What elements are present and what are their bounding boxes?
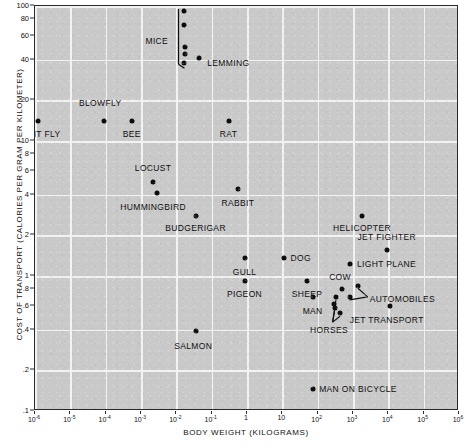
x-tick-mark	[281, 411, 282, 414]
point-label: HUMMINGBIRD	[120, 203, 186, 212]
data-point	[305, 278, 310, 283]
y-tick-mark	[30, 5, 34, 6]
x-tick-label: 10-3	[134, 414, 146, 423]
x-tick-label: 1	[244, 414, 248, 421]
y-tick-label: .4	[23, 324, 29, 333]
point-label: BLOWFLY	[79, 99, 121, 108]
data-point	[181, 23, 186, 28]
y-tick-mark	[30, 304, 34, 305]
data-point	[333, 294, 338, 299]
y-tick-label: .6	[23, 300, 29, 309]
y-tick-label: .8	[23, 284, 29, 293]
x-tick-mark	[387, 411, 388, 414]
y-tick-mark	[30, 99, 34, 100]
point-label: HORSES	[310, 326, 348, 335]
y-axis-title: COST OF TRANSPORT (CALORIES PER GRAM PER…	[15, 5, 24, 405]
data-point	[242, 256, 247, 261]
point-label: SALMON	[174, 342, 212, 351]
y-tick-mark	[30, 288, 34, 289]
data-point	[242, 278, 247, 283]
x-tick-mark	[34, 411, 35, 414]
y-tick-mark	[30, 275, 34, 276]
point-label: GULL	[233, 268, 257, 277]
y-tick-mark	[30, 369, 34, 370]
data-point	[154, 191, 159, 196]
y-tick-mark	[30, 58, 34, 59]
y-gridline	[35, 330, 457, 332]
bracket-label-mice: MICE	[145, 37, 168, 46]
x-tick-mark	[175, 411, 176, 414]
data-point	[356, 283, 361, 288]
data-point	[384, 248, 389, 253]
x-tick-label: 102	[311, 414, 322, 423]
data-point	[183, 52, 188, 57]
data-point	[347, 294, 352, 299]
cost-of-transport-chart: FRUIT FLYBLOWFLYBEELEMMINGRATLOCUSTHUMMI…	[0, 0, 465, 448]
data-point	[193, 213, 198, 218]
x-tick-mark	[352, 411, 353, 414]
x-gridline	[282, 6, 284, 409]
data-point	[183, 44, 188, 49]
x-tick-label: 105	[417, 414, 428, 423]
point-label: MAN ON BICYCLE	[319, 385, 397, 394]
data-point	[235, 187, 240, 192]
data-point	[387, 303, 392, 308]
y-tick-label: 1	[25, 271, 29, 280]
x-tick-label: 106	[453, 414, 464, 423]
x-tick-label: 10-4	[99, 414, 111, 423]
x-axis-title: BODY WEIGHT (KILOGRAMS)	[34, 428, 458, 437]
point-label: RAT	[220, 130, 237, 139]
x-tick-mark	[211, 411, 212, 414]
x-tick-mark	[69, 411, 70, 414]
y-tick-mark	[30, 34, 34, 35]
point-label: MAN	[303, 307, 323, 316]
x-tick-label: 10	[277, 414, 285, 421]
data-point	[129, 119, 134, 124]
y-tick-label: 4	[25, 189, 29, 198]
y-gridline	[35, 195, 457, 197]
x-tick-label: 104	[382, 414, 393, 423]
y-tick-mark	[30, 193, 34, 194]
data-point	[311, 387, 316, 392]
y-tick-mark	[30, 18, 34, 19]
x-tick-mark	[140, 411, 141, 414]
x-tick-label: 103	[347, 414, 358, 423]
point-label: SHEEP	[292, 290, 323, 299]
y-tick-label: .2	[23, 365, 29, 374]
data-point	[102, 119, 107, 124]
data-point	[338, 311, 343, 316]
data-point	[332, 302, 337, 307]
point-label: LEMMING	[207, 59, 249, 68]
point-label: BUDGERIGAR	[165, 224, 226, 233]
point-label: JET FIGHTER	[357, 233, 415, 242]
point-label: BEE	[123, 130, 141, 139]
y-tick-mark	[30, 328, 34, 329]
leader-line	[358, 289, 367, 297]
point-label: COW	[329, 273, 351, 282]
x-gridline	[424, 6, 426, 409]
data-point	[151, 179, 156, 184]
point-label: JET TRANSPORT	[350, 316, 424, 325]
leader-line	[333, 311, 335, 322]
data-point	[281, 256, 286, 261]
data-point	[181, 60, 186, 65]
point-label: RABBIT	[221, 199, 254, 208]
point-label: LOCUST	[135, 164, 172, 173]
data-point	[347, 262, 352, 267]
x-tick-label: 10-5	[63, 414, 75, 423]
x-tick-mark	[105, 411, 106, 414]
x-tick-mark	[317, 411, 318, 414]
y-gridline	[35, 141, 457, 143]
data-point	[35, 119, 40, 124]
x-tick-label: 10-6	[28, 414, 40, 423]
point-label: PIGEON	[227, 290, 262, 299]
x-gridline	[388, 6, 390, 409]
y-gridline	[35, 6, 457, 8]
data-point	[197, 56, 202, 61]
data-point	[193, 329, 198, 334]
leader-line	[333, 316, 340, 322]
y-tick-mark	[30, 169, 34, 170]
y-tick-mark	[30, 234, 34, 235]
y-tick-mark	[30, 153, 34, 154]
y-tick-mark	[30, 140, 34, 141]
